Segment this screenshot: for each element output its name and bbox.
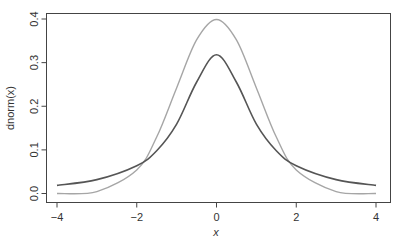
x-tick-label: 0 (213, 211, 219, 223)
y-axis: 0.00.10.20.30.4 (28, 11, 47, 201)
y-tick-label: 0.3 (28, 55, 40, 70)
y-axis-title: dnorm(x) (4, 86, 16, 130)
x-tick-label: −2 (130, 211, 143, 223)
x-axis: −4−2024 (51, 203, 379, 223)
x-tick-label: 4 (373, 211, 379, 223)
curves (57, 19, 376, 193)
y-tick-label: 0.4 (28, 11, 40, 26)
plot-frame (47, 14, 391, 203)
density-chart: −4−2024 0.00.10.20.30.4 x dnorm(x) (0, 0, 406, 249)
y-tick-label: 0.1 (28, 142, 40, 157)
y-tick-label: 0.0 (28, 186, 40, 201)
x-tick-label: 2 (293, 211, 299, 223)
x-tick-label: −4 (51, 211, 64, 223)
x-axis-title: x (212, 226, 219, 238)
series-line-2 (57, 55, 376, 186)
y-tick-label: 0.2 (28, 99, 40, 114)
series-line-1 (57, 19, 376, 193)
